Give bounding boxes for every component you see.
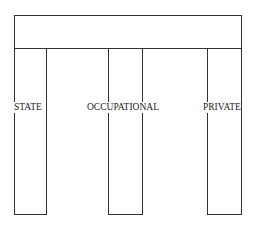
pillar-private xyxy=(207,48,242,215)
pillar-label-private: PRIVATE xyxy=(203,102,241,113)
roof-beam xyxy=(14,15,242,49)
pillar-label-state: STATE xyxy=(14,102,42,113)
pillar-state xyxy=(14,48,47,215)
pillar-label-occupational: OCCUPATIONAL xyxy=(87,102,159,113)
three-pillar-diagram: STATE OCCUPATIONAL PRIVATE xyxy=(0,0,255,230)
pillar-occupational xyxy=(108,48,143,215)
